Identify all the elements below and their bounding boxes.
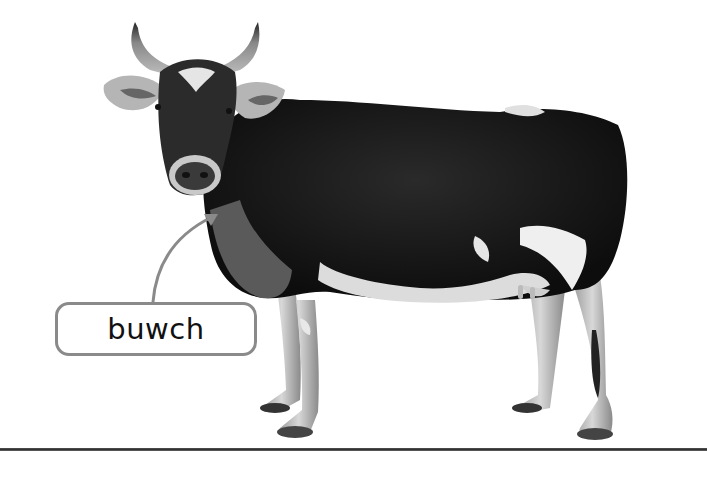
cow-illustration <box>0 0 707 482</box>
vocabulary-label: buwch <box>55 302 257 356</box>
illustration-scene: buwch <box>0 0 707 482</box>
cow-body <box>203 99 627 303</box>
label-text: buwch <box>107 312 204 346</box>
ground-line <box>0 448 707 451</box>
